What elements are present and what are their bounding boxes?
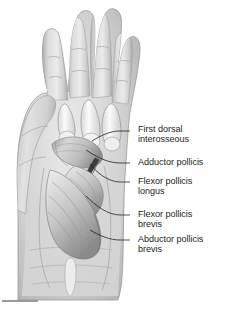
hand-illustration	[0, 0, 225, 311]
anatomy-figure: First dorsal interosseous Adductor polli…	[0, 0, 225, 311]
label-first-dorsal-interosseous: First dorsal interosseous	[138, 124, 189, 145]
label-adductor-pollicis: Adductor pollicis	[138, 157, 203, 167]
label-flexor-pollicis-brevis: Flexor pollicis brevis	[138, 209, 192, 230]
label-abductor-pollicis-brevis: Abductor pollicis brevis	[138, 234, 203, 255]
label-flexor-pollicis-longus: Flexor pollicis longus	[138, 176, 192, 197]
bottom-rule	[2, 300, 38, 302]
